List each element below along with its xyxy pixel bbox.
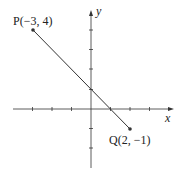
segment-pq bbox=[33, 30, 130, 129]
point-p-label: P(−3, 4) bbox=[13, 14, 52, 28]
y-axis-arrow-icon bbox=[89, 10, 93, 16]
x-axis-label: x bbox=[164, 111, 171, 125]
point-q-label: Q(2, −1) bbox=[109, 133, 150, 147]
point-q bbox=[128, 127, 132, 131]
point-p bbox=[31, 28, 35, 32]
coordinate-plane: y x P(−3, 4) Q(2, −1) bbox=[0, 0, 183, 187]
y-axis-label: y bbox=[95, 4, 102, 18]
